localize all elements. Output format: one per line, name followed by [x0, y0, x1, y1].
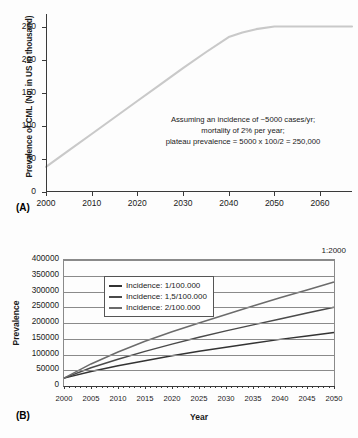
panel-b-x-tick-label: 2005 [83, 394, 100, 403]
panel-b-x-minor-tick [123, 386, 124, 388]
panel-a-x-tick-label: 2040 [219, 198, 238, 208]
panel-b-x-minor-tick [242, 386, 243, 388]
panel-b-x-minor-tick [204, 386, 205, 388]
panel-b-x-tick: 2015 [145, 386, 146, 389]
panel-a-caption-label: (A) [16, 202, 30, 213]
panel-a-line-series [46, 14, 352, 192]
panel-b-x-minor-tick [188, 386, 189, 388]
panel-b-x-tick: 2025 [199, 386, 200, 389]
panel-a-x-tick: 2010 [92, 192, 93, 196]
panel-a-y-tick-label: 0 [31, 186, 36, 196]
panel-a-x-tick-label: 2050 [265, 198, 284, 208]
panel-b-y-axis-label: Prevalence [11, 283, 21, 363]
panel-b-x-minor-tick [210, 386, 211, 388]
panel-b-x-minor-tick [215, 386, 216, 388]
panel-a-y-tick-label: 100 [22, 120, 36, 130]
panel-a-y-tick-label: 150 [22, 87, 36, 97]
panel-a-x-tick: 2060 [320, 192, 321, 196]
panel-b-x-tick: 2045 [307, 386, 308, 389]
panel-b-x-minor-tick [167, 386, 168, 388]
panel-b-legend-swatch [109, 285, 122, 287]
panel-a-y-tick: 250 [42, 27, 46, 28]
panel-b-series-line [64, 307, 334, 378]
panel-b-y-tick-label: 350000 [32, 270, 59, 279]
panel-b-legend-label: Incidence: 1/100.000 [126, 281, 200, 290]
panel-b-x-minor-tick [107, 386, 108, 388]
panel-a-y-tick: 100 [42, 126, 46, 127]
panel-b-x-minor-tick [285, 386, 286, 388]
panel-b-x-minor-tick [86, 386, 87, 388]
panel-b-x-minor-tick [161, 386, 162, 388]
panel-a-y-tick-label: 200 [22, 54, 36, 64]
panel-b-x-minor-tick [156, 386, 157, 388]
panel-b-x-minor-tick [221, 386, 222, 388]
panel-b-x-minor-tick [329, 386, 330, 388]
panel-b-gridline: 150000 [64, 339, 334, 340]
panel-b-x-minor-tick [80, 386, 81, 388]
panel-b-gridline: 50000 [64, 370, 334, 371]
panel-a-x-tick: 2000 [46, 192, 47, 196]
panel-b-x-minor-tick [102, 386, 103, 388]
panel-b-plot-area: 0500001000001500002000002500003000003500… [63, 259, 335, 387]
panel-a-x-tick-label: 2000 [37, 198, 56, 208]
panel-b-x-minor-tick [129, 386, 130, 388]
panel-b-gridline: 200000 [64, 323, 334, 324]
panel-b-gridline: 400000 [64, 260, 334, 261]
panel-b-x-minor-tick [113, 386, 114, 388]
panel-a-x-tick: 2040 [229, 192, 230, 196]
panel-a-y-tick: 200 [42, 60, 46, 61]
panel-a-x-tick-label: 2010 [82, 198, 101, 208]
panel-b-legend-label: Incidence: 1,5/100.000 [126, 292, 207, 301]
panel-b-x-minor-tick [75, 386, 76, 388]
panel-b-legend-label: Incidence: 2/100.000 [126, 303, 200, 312]
panel-b-x-minor-tick [150, 386, 151, 388]
panel-b-x-minor-tick [140, 386, 141, 388]
panel-a-annotation: Assuming an incidence of ~5000 cases/yr;… [134, 114, 352, 147]
chart-panel-a: Prevalence of CML (No. in US in thousand… [0, 0, 358, 218]
panel-b-x-minor-tick [69, 386, 70, 388]
panel-b-x-minor-tick [312, 386, 313, 388]
panel-a-x-tick: 2020 [137, 192, 138, 196]
panel-b-y-tick-label: 400000 [32, 254, 59, 263]
panel-b-x-minor-tick [264, 386, 265, 388]
panel-b-legend-swatch [109, 296, 122, 298]
panel-b-x-tick-label: 2040 [272, 394, 289, 403]
panel-b-gridline: 100000 [64, 355, 334, 356]
panel-b-x-axis-label: Year [63, 412, 335, 422]
panel-b-x-tick: 2005 [91, 386, 92, 389]
panel-a-y-tick: 150 [42, 93, 46, 94]
panel-b-x-tick-label: 2045 [299, 394, 316, 403]
panel-b-x-minor-tick [194, 386, 195, 388]
panel-b-x-tick: 2050 [334, 386, 335, 389]
panel-b-y-tick-label: 250000 [32, 301, 59, 310]
panel-b-x-tick: 2000 [64, 386, 65, 389]
panel-a-y-tick: 50 [42, 159, 46, 160]
panel-a-x-tick: 2050 [274, 192, 275, 196]
panel-b-legend-item: Incidence: 1/100.000 [109, 280, 207, 291]
panel-b-y-tick-label: 200000 [32, 317, 59, 326]
panel-b-legend-item: Incidence: 1,5/100.000 [109, 291, 207, 302]
panel-b-ratio-annotation: 1:2000 [322, 246, 346, 255]
panel-b-x-minor-tick [318, 386, 319, 388]
panel-b-x-tick-label: 2050 [326, 394, 343, 403]
panel-a-y-tick-label: 250 [22, 21, 36, 31]
panel-b-x-tick: 2020 [172, 386, 173, 389]
panel-b-x-tick: 2035 [253, 386, 254, 389]
panel-b-x-minor-tick [237, 386, 238, 388]
panel-b-y-tick-label: 300000 [32, 286, 59, 295]
panel-b-x-tick-label: 2020 [164, 394, 181, 403]
panel-b-y-tick-label: 150000 [32, 333, 59, 342]
panel-b-x-tick: 2040 [280, 386, 281, 389]
chart-panel-b: 1:2000 Prevalence 0500001000001500002000… [0, 218, 358, 438]
panel-b-x-minor-tick [248, 386, 249, 388]
panel-b-legend-swatch [109, 307, 122, 309]
panel-b-x-minor-tick [96, 386, 97, 388]
panel-b-x-minor-tick [134, 386, 135, 388]
panel-b-x-minor-tick [291, 386, 292, 388]
panel-b-x-minor-tick [269, 386, 270, 388]
panel-a-x-tick-label: 2020 [128, 198, 147, 208]
panel-b-x-minor-tick [323, 386, 324, 388]
panel-b-y-tick-label: 0 [54, 380, 59, 389]
panel-a-annotation-line: plateau prevalence = 5000 x 100/2 = 250,… [134, 136, 352, 147]
panel-a-x-tick: 2030 [183, 192, 184, 196]
